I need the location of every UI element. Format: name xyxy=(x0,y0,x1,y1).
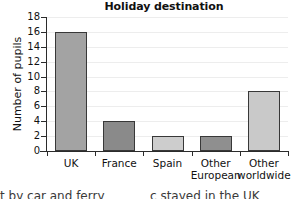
y-axis-tick-label-wrap: 2 xyxy=(0,131,40,141)
y-axis-tick xyxy=(41,136,47,137)
y-axis-tick-label: 4 xyxy=(6,116,40,126)
footer-fragment-left: t by car and ferry xyxy=(0,190,105,199)
bar xyxy=(248,91,280,151)
y-axis-tick xyxy=(41,17,47,18)
y-axis-tick xyxy=(41,106,47,107)
y-axis-tick-label-wrap: 16 xyxy=(0,27,40,37)
x-axis-tick xyxy=(143,151,144,156)
x-axis-line xyxy=(40,151,288,152)
x-axis-tick-label-line2: worldwide xyxy=(224,169,304,181)
y-axis-tick-label-wrap: 14 xyxy=(0,42,40,52)
y-axis-tick xyxy=(41,121,47,122)
y-axis-tick xyxy=(41,91,47,92)
clipped-footer-text: t by car and ferry c stayed in the UK xyxy=(0,190,305,199)
y-axis-tick-label: 8 xyxy=(6,86,40,96)
y-axis-tick-label: 2 xyxy=(6,131,40,141)
plot-area xyxy=(47,17,288,151)
y-axis-tick-label-wrap: 0 xyxy=(0,146,40,156)
y-axis-tick xyxy=(41,32,47,33)
footer-fragment-right: c stayed in the UK xyxy=(150,190,260,199)
y-axis-tick-label: 6 xyxy=(6,101,40,111)
y-axis-tick-label-wrap: 12 xyxy=(0,57,40,67)
x-axis-tick xyxy=(240,151,241,156)
y-axis-tick-label: 16 xyxy=(6,27,40,37)
y-axis-tick xyxy=(41,77,47,78)
bar xyxy=(103,121,135,151)
y-axis-line xyxy=(46,17,47,152)
y-axis-tick-label-wrap: 8 xyxy=(0,86,40,96)
y-axis-tick-label: 18 xyxy=(6,12,40,22)
bar xyxy=(200,136,232,151)
x-axis-tick xyxy=(192,151,193,156)
y-axis-tick-label-wrap: 6 xyxy=(0,101,40,111)
y-axis-tick-label: 14 xyxy=(6,42,40,52)
x-axis-tick xyxy=(95,151,96,156)
y-axis-tick-label: 10 xyxy=(6,72,40,82)
y-axis-tick xyxy=(41,62,47,63)
bar xyxy=(152,136,184,151)
y-axis-tick-label-wrap: 4 xyxy=(0,116,40,126)
y-axis-tick-label: 12 xyxy=(6,57,40,67)
y-axis-tick-label-wrap: 18 xyxy=(0,12,40,22)
x-axis-tick-label-line1: Other xyxy=(249,157,279,169)
x-axis-tick xyxy=(288,151,289,156)
x-axis-tick xyxy=(47,151,48,156)
y-axis-tick xyxy=(41,47,47,48)
gridline xyxy=(47,17,288,18)
y-axis-tick-label-wrap: 10 xyxy=(0,72,40,82)
bar xyxy=(55,32,87,151)
x-axis-tick-label: Otherworldwide xyxy=(224,157,304,181)
chart-figure: Holiday destination Number of pupils 024… xyxy=(0,0,305,199)
x-axis-tick-label-line1: UK xyxy=(64,157,79,169)
y-axis-tick-label: 0 xyxy=(6,146,40,156)
chart-title: Holiday destination xyxy=(40,0,288,14)
